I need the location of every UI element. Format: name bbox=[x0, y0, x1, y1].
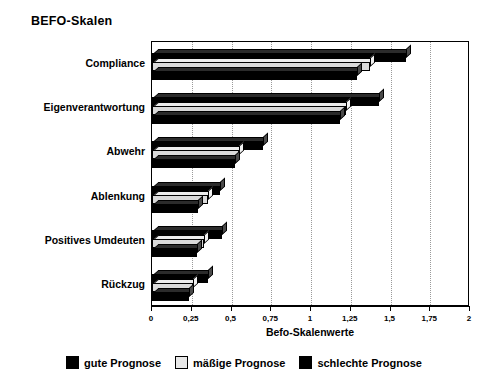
legend-swatch bbox=[66, 356, 79, 369]
chart-legend: gute Prognosemäßige Prognoseschlechte Pr… bbox=[0, 356, 488, 369]
bar-top-face bbox=[154, 226, 227, 230]
bar-top-face bbox=[154, 58, 375, 62]
gridline bbox=[192, 42, 193, 305]
bar-end-cap bbox=[357, 63, 362, 77]
x-axis-tick-label: 1 bbox=[308, 314, 312, 323]
gridline bbox=[351, 42, 352, 305]
x-axis-tick bbox=[469, 306, 470, 311]
gridline bbox=[232, 42, 233, 305]
bar-top-face bbox=[154, 279, 198, 283]
category-label: Rückzug bbox=[25, 278, 145, 290]
x-axis-tick-label: 0,25 bbox=[183, 314, 199, 323]
x-axis-tick-label: 0 bbox=[149, 314, 153, 323]
bar-end-cap bbox=[406, 45, 411, 59]
bar-top-face bbox=[154, 146, 244, 150]
gridline bbox=[430, 42, 431, 305]
bar-top-face bbox=[154, 93, 384, 97]
legend-swatch bbox=[175, 356, 188, 369]
bar-end-cap bbox=[263, 133, 268, 147]
bar-end-cap bbox=[204, 230, 209, 244]
gridline bbox=[271, 42, 272, 305]
x-axis-tick-label: 1,75 bbox=[421, 314, 437, 323]
bar-end-cap bbox=[208, 265, 213, 279]
x-axis-tick bbox=[310, 306, 311, 311]
x-axis-tick bbox=[151, 306, 152, 311]
category-label: Abwehr bbox=[25, 145, 145, 157]
bar-face bbox=[152, 248, 197, 257]
bar-end-cap bbox=[239, 142, 244, 156]
bar bbox=[152, 115, 340, 124]
legend-label: schlechte Prognose bbox=[317, 357, 422, 369]
bar-end-cap bbox=[370, 54, 375, 68]
bar bbox=[152, 292, 189, 301]
bar-face bbox=[152, 115, 340, 124]
chart-title: BEFO-Skalen bbox=[31, 14, 112, 28]
bar bbox=[152, 204, 198, 213]
bar-top-face bbox=[154, 137, 268, 141]
bar-top-face bbox=[154, 191, 212, 195]
category-label: Positives Umdeuten bbox=[25, 234, 145, 246]
bar-end-cap bbox=[235, 151, 240, 165]
bar-face bbox=[152, 292, 189, 301]
bar bbox=[152, 159, 235, 168]
x-axis-tick bbox=[390, 306, 391, 311]
bar-top-face bbox=[154, 67, 362, 71]
bar-top-face bbox=[154, 111, 344, 115]
legend-label: mäßige Prognose bbox=[193, 357, 285, 369]
bar-end-cap bbox=[220, 177, 225, 191]
gridline bbox=[391, 42, 392, 305]
category-label: Compliance bbox=[25, 57, 145, 69]
bar-end-cap bbox=[379, 89, 384, 103]
chart-container: BEFO-Skalen ComplianceEigenverantwortung… bbox=[0, 0, 488, 385]
x-axis-tick bbox=[270, 306, 271, 311]
x-axis-tick bbox=[191, 306, 192, 311]
x-axis-tick-label: 2 bbox=[467, 314, 471, 323]
plot-area bbox=[151, 41, 469, 306]
legend-item[interactable]: gute Prognose bbox=[66, 356, 161, 369]
bar-face bbox=[152, 204, 198, 213]
legend-label: gute Prognose bbox=[84, 357, 161, 369]
x-axis-tick-label: 1,5 bbox=[384, 314, 395, 323]
legend-item[interactable]: mäßige Prognose bbox=[175, 356, 285, 369]
x-axis-tick-label: 1,25 bbox=[342, 314, 358, 323]
bar-face bbox=[152, 71, 357, 80]
category-label: Eigenverantwortung bbox=[25, 101, 145, 113]
gridline bbox=[311, 42, 312, 305]
bar-top-face bbox=[154, 49, 411, 53]
bar-face bbox=[152, 159, 235, 168]
bar-top-face bbox=[154, 102, 351, 106]
x-axis-tick bbox=[231, 306, 232, 311]
bar-top-face bbox=[154, 200, 203, 204]
bar-top-face bbox=[154, 270, 212, 274]
bar-top-face bbox=[154, 182, 225, 186]
bar-end-cap bbox=[193, 274, 198, 288]
x-axis-tick-label: 0,5 bbox=[225, 314, 236, 323]
x-axis-tick-label: 0,75 bbox=[262, 314, 278, 323]
legend-swatch bbox=[299, 356, 312, 369]
category-axis: ComplianceEigenverantwortungAbwehrAblenk… bbox=[21, 41, 145, 306]
bar-top-face bbox=[154, 244, 201, 248]
bar bbox=[152, 248, 197, 257]
category-label: Ablenkung bbox=[25, 190, 145, 202]
legend-item[interactable]: schlechte Prognose bbox=[299, 356, 422, 369]
x-axis-tick bbox=[429, 306, 430, 311]
bar-top-face bbox=[154, 155, 239, 159]
bar-top-face bbox=[154, 235, 209, 239]
x-axis-title: Befo-Skalenwerte bbox=[151, 326, 469, 338]
x-axis-tick bbox=[350, 306, 351, 311]
bar-top-face bbox=[154, 288, 193, 292]
bar-end-cap bbox=[222, 221, 227, 235]
bar bbox=[152, 71, 357, 80]
